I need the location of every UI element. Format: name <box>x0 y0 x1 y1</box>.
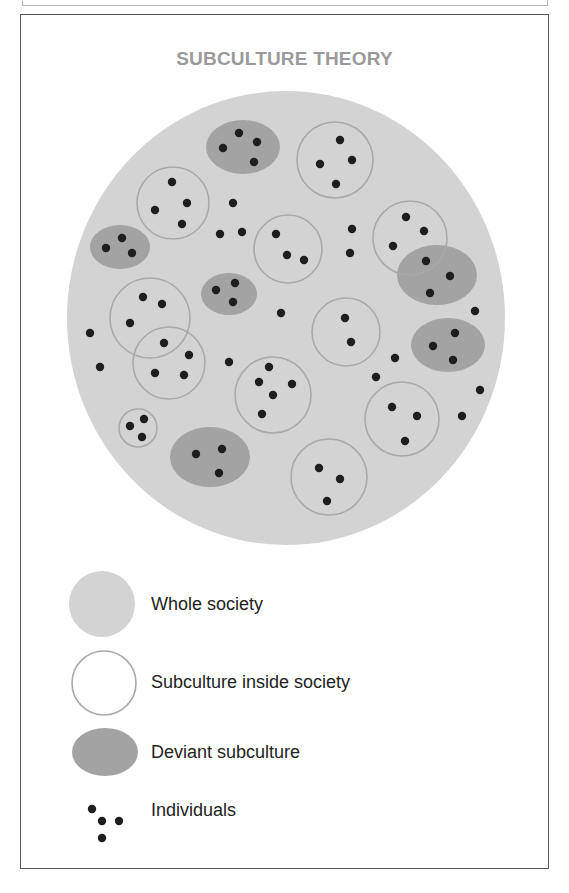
individual-dot <box>451 329 459 337</box>
individual-dot <box>139 293 147 301</box>
legend-label-whole-society: Whole society <box>151 594 263 615</box>
individual-dot <box>422 257 430 265</box>
individual-dot <box>316 160 324 168</box>
individual-dot <box>402 213 410 221</box>
individual-dot <box>288 380 296 388</box>
individual-dot <box>229 298 237 306</box>
individual-dot <box>229 199 237 207</box>
individual-dot <box>231 279 239 287</box>
individual-dot <box>449 356 457 364</box>
individual-dot <box>389 242 397 250</box>
individual-dot <box>138 433 146 441</box>
individual-dot <box>98 834 106 842</box>
individual-dot <box>348 225 356 233</box>
individual-dot <box>372 373 380 381</box>
individual-dot <box>413 412 421 420</box>
individual-dot <box>160 339 168 347</box>
deviant-subculture <box>206 120 280 174</box>
whole-society-circle <box>67 91 505 545</box>
individual-dot <box>235 129 243 137</box>
individual-dot <box>212 286 220 294</box>
individual-dot <box>258 410 266 418</box>
individual-dot <box>126 422 134 430</box>
individual-dot <box>218 445 226 453</box>
individual-dot <box>283 251 291 259</box>
individual-dot <box>140 415 148 423</box>
individual-dot <box>96 363 104 371</box>
individual-dot <box>277 309 285 317</box>
individual-dot <box>458 412 466 420</box>
individual-dot <box>401 437 409 445</box>
individual-dot <box>183 199 191 207</box>
legend-label-subculture: Subculture inside society <box>151 672 350 693</box>
individual-dot <box>348 156 356 164</box>
individual-dot <box>269 391 277 399</box>
individual-dot <box>255 378 263 386</box>
individual-dot <box>250 158 258 166</box>
legend-deviant-subculture-icon <box>72 728 138 776</box>
individual-dot <box>185 351 193 359</box>
individual-dot <box>253 138 261 146</box>
legend-subculture-icon <box>72 651 136 715</box>
individual-dot <box>180 371 188 379</box>
individual-dot <box>420 227 428 235</box>
individual-dot <box>118 234 126 242</box>
legend-label-deviant-subculture: Deviant subculture <box>151 742 300 763</box>
individual-dot <box>346 249 354 257</box>
legend-whole-society-icon <box>69 571 135 637</box>
individual-dot <box>88 805 96 813</box>
individual-dot <box>215 469 223 477</box>
individual-dot <box>225 358 233 366</box>
individual-dot <box>476 386 484 394</box>
individual-dot <box>323 497 331 505</box>
legend-label-individuals: Individuals <box>151 800 236 821</box>
individual-dot <box>151 206 159 214</box>
individual-dot <box>265 363 273 371</box>
individual-dot <box>238 228 246 236</box>
deviant-subculture <box>170 427 250 487</box>
individual-dot <box>115 817 123 825</box>
individual-dot <box>178 220 186 228</box>
deviant-subculture <box>411 318 485 372</box>
individual-dot <box>168 178 176 186</box>
deviant-subculture <box>90 225 150 269</box>
individual-dot <box>102 244 110 252</box>
individual-dot <box>429 342 437 350</box>
individual-dot <box>471 307 479 315</box>
deviant-subculture <box>201 273 257 315</box>
individual-dot <box>216 230 224 238</box>
individual-dot <box>151 369 159 377</box>
individual-dot <box>315 464 323 472</box>
individual-dot <box>341 314 349 322</box>
individual-dot <box>336 136 344 144</box>
individual-dot <box>98 817 106 825</box>
individual-dot <box>347 338 355 346</box>
individual-dot <box>272 230 280 238</box>
individual-dot <box>86 329 94 337</box>
individual-dot <box>128 249 136 257</box>
legend-individuals-icon <box>88 805 123 842</box>
individual-dot <box>158 300 166 308</box>
individual-dot <box>126 319 134 327</box>
individual-dot <box>336 475 344 483</box>
individual-dot <box>426 289 434 297</box>
individual-dot <box>391 354 399 362</box>
individual-dot <box>446 272 454 280</box>
individual-dot <box>388 403 396 411</box>
individual-dot <box>300 256 308 264</box>
individual-dot <box>219 144 227 152</box>
individual-dot <box>192 450 200 458</box>
individual-dot <box>332 180 340 188</box>
whole-society <box>67 91 505 545</box>
legend <box>69 571 138 842</box>
